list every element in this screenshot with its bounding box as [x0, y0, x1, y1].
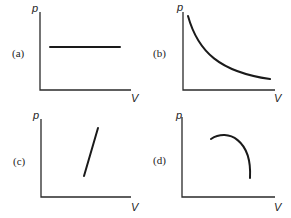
axes-c — [41, 119, 131, 197]
panel-label-d: (d) — [153, 154, 166, 167]
p-axis-label-d: p — [175, 109, 182, 121]
panel-d: p V (d) — [153, 109, 283, 213]
v-axis-label-a: V — [131, 92, 140, 104]
curve-b-hyperbola — [188, 16, 270, 79]
panel-label-b: (b) — [153, 47, 166, 60]
curve-c-line — [84, 128, 98, 176]
panel-a: p V (a) — [12, 2, 140, 104]
v-axis-label-d: V — [274, 201, 283, 213]
pv-diagrams: p V (a) p V (b) p V (c) p V (d) — [0, 0, 291, 218]
panel-c: p V (c) — [13, 109, 140, 213]
axes-a — [40, 12, 131, 90]
p-axis-label-a: p — [31, 2, 38, 14]
axes-d — [182, 117, 275, 197]
panel-b: p V (b) — [153, 1, 283, 104]
panel-label-c: (c) — [13, 155, 26, 168]
p-axis-label-b: p — [176, 1, 183, 13]
p-axis-label-c: p — [32, 109, 39, 121]
curve-d-arc — [211, 135, 250, 178]
v-axis-label-c: V — [131, 201, 140, 213]
panel-label-a: (a) — [12, 47, 25, 60]
v-axis-label-b: V — [274, 92, 283, 104]
